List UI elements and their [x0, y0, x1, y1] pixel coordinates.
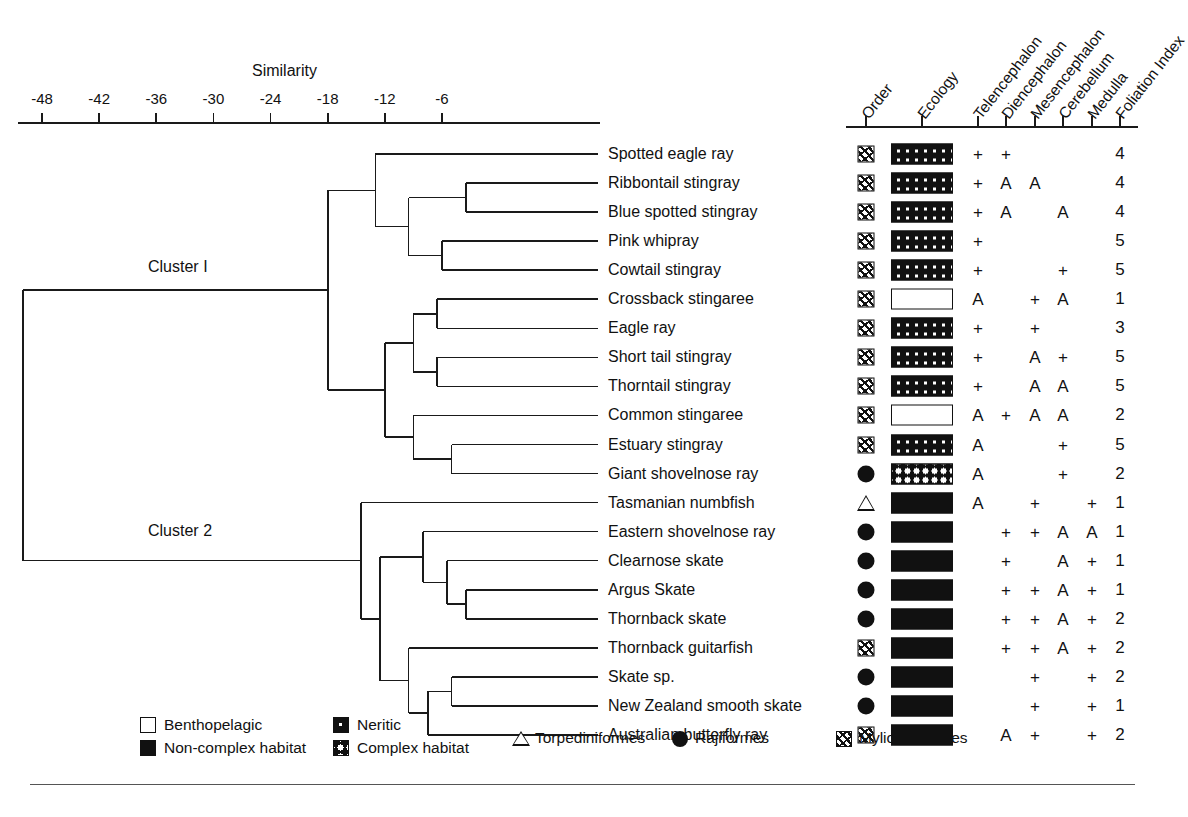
- leaf-label: Estuary stingray: [608, 436, 723, 454]
- foliation-index-value: 2: [1115, 638, 1124, 658]
- leaf-label: Thornback guitarfish: [608, 639, 753, 657]
- legend-label-complex: Complex habitat: [357, 739, 469, 757]
- tree-branch-horizontal: [361, 502, 598, 504]
- tree-branch-horizontal: [466, 182, 598, 184]
- tree-branch-horizontal: [437, 386, 598, 388]
- cluster-label-2: Cluster 2: [148, 522, 212, 540]
- matrix-header-ecology: Ecology: [914, 68, 962, 123]
- ecology-swatch-neritic: [891, 347, 953, 368]
- matrix-header-tick: [865, 116, 867, 126]
- tree-branch-horizontal: [23, 289, 328, 291]
- similarity-axis-line: [18, 122, 600, 124]
- foliation-index-value: 2: [1115, 464, 1124, 484]
- leaf-label: Crossback stingaree: [608, 290, 754, 308]
- trait-cell-cerebellum: A: [1057, 378, 1068, 395]
- foliation-index-value: 2: [1115, 667, 1124, 687]
- foliation-index-value: 1: [1115, 289, 1124, 309]
- leaf-label: Eastern shovelnose ray: [608, 523, 775, 541]
- tree-branch-horizontal: [437, 328, 598, 330]
- legend-swatch-benthopelagic: [140, 717, 156, 733]
- tree-branch-horizontal: [466, 618, 598, 620]
- trait-cell-diencephalon: +: [1001, 146, 1011, 163]
- axis-tick-label: -6: [416, 90, 468, 107]
- tree-branch-horizontal: [23, 560, 361, 562]
- leaf-label: Common stingaree: [608, 406, 743, 424]
- open-triangle-icon: [857, 495, 875, 511]
- trait-cell-medulla: +: [1087, 727, 1097, 744]
- trait-cell-mesencephalon: A: [1029, 378, 1040, 395]
- trait-cell-telencephalon: A: [972, 436, 983, 453]
- trait-cell-telencephalon: A: [972, 407, 983, 424]
- ecology-swatch-benthopelagic: [891, 289, 953, 310]
- trait-cell-diencephalon: +: [1001, 552, 1011, 569]
- legend-label-benthopelagic: Benthopelagic: [164, 716, 262, 734]
- trait-cell-medulla: +: [1087, 697, 1097, 714]
- trait-cell-cerebellum: +: [1058, 436, 1068, 453]
- leaf-label: Short tail stingray: [608, 348, 732, 366]
- leaf-label: Thorntail stingray: [608, 377, 731, 395]
- tree-branch-horizontal: [466, 211, 598, 213]
- axis-tick: [270, 113, 272, 123]
- filled-circle-icon: [858, 610, 875, 627]
- leaf-label: Eagle ray: [608, 319, 676, 337]
- foliation-index-value: 5: [1115, 376, 1124, 396]
- trait-cell-cerebellum: A: [1057, 552, 1068, 569]
- trait-cell-cerebellum: A: [1057, 407, 1068, 424]
- axis-tick-label: -42: [73, 90, 125, 107]
- hatched-square-icon: [858, 349, 875, 366]
- cluster-label-1: Cluster I: [148, 258, 208, 276]
- hatched-square-icon: [858, 378, 875, 395]
- trait-cell-telencephalon: +: [973, 320, 983, 337]
- trait-cell-telencephalon: +: [973, 146, 983, 163]
- order-symbol-rajiformes: [858, 697, 875, 714]
- trait-cell-mesencephalon: A: [1029, 407, 1040, 424]
- matrix-header-tick: [1005, 116, 1007, 126]
- order-symbol-rajiformes: [858, 610, 875, 627]
- tree-branch-horizontal: [375, 153, 598, 155]
- trait-cell-diencephalon: A: [1000, 175, 1011, 192]
- hatched-square-icon: [858, 436, 875, 453]
- tree-branch-horizontal: [437, 357, 598, 359]
- foliation-index-value: 5: [1115, 260, 1124, 280]
- ecology-swatch-neritic: [891, 434, 953, 455]
- legend-label-torpediniformes: Torpediniformes: [535, 729, 645, 747]
- trait-cell-cerebellum: +: [1058, 262, 1068, 279]
- order-symbol-myliobatiformes: [858, 378, 875, 395]
- foliation-index-value: 1: [1115, 696, 1124, 716]
- filled-circle-icon: [858, 668, 875, 685]
- tree-branch-horizontal: [380, 680, 409, 682]
- legend-filled-circle-icon: [672, 731, 688, 747]
- trait-cell-mesencephalon: +: [1030, 727, 1040, 744]
- caption-rule: [30, 784, 1135, 785]
- tree-branch-horizontal: [452, 473, 598, 475]
- axis-tick-label: -36: [130, 90, 182, 107]
- order-symbol-myliobatiformes: [858, 349, 875, 366]
- axis-title: Similarity: [252, 62, 317, 80]
- trait-cell-mesencephalon: +: [1030, 291, 1040, 308]
- trait-cell-telencephalon: +: [973, 204, 983, 221]
- trait-cell-mesencephalon: A: [1029, 349, 1040, 366]
- trait-cell-diencephalon: +: [1001, 523, 1011, 540]
- leaf-label: Blue spotted stingray: [608, 203, 757, 221]
- trait-cell-cerebellum: A: [1057, 610, 1068, 627]
- tree-branch-vertical: [22, 290, 24, 561]
- foliation-index-value: 4: [1115, 173, 1124, 193]
- trait-cell-telencephalon: +: [973, 233, 983, 250]
- tree-branch-horizontal: [361, 618, 380, 620]
- axis-tick: [41, 113, 43, 123]
- trait-cell-diencephalon: +: [1001, 639, 1011, 656]
- axis-tick: [98, 113, 100, 123]
- tree-branch-horizontal: [409, 647, 598, 649]
- tree-branch-horizontal: [413, 371, 437, 373]
- ecology-swatch-neritic: [891, 318, 953, 339]
- foliation-index-value: 1: [1115, 580, 1124, 600]
- leaf-label: Clearnose skate: [608, 552, 724, 570]
- ecology-swatch-noncomplex: [891, 492, 953, 513]
- ecology-swatch-noncomplex: [891, 666, 953, 687]
- foliation-index-value: 3: [1115, 318, 1124, 338]
- trait-cell-mesencephalon: A: [1029, 175, 1040, 192]
- foliation-index-value: 1: [1115, 551, 1124, 571]
- ecology-swatch-neritic: [891, 173, 953, 194]
- hatched-square-icon: [858, 233, 875, 250]
